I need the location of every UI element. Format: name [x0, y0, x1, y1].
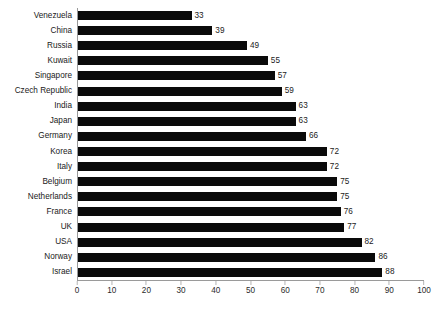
- bar-value-label: 33: [195, 11, 204, 19]
- x-tick: 80: [350, 281, 359, 295]
- bar-value-label: 72: [330, 147, 339, 155]
- bar: 55: [77, 56, 268, 65]
- bar: 86: [77, 253, 375, 262]
- bar-value-label: 59: [285, 87, 294, 95]
- bar-row: Norway86: [77, 250, 424, 265]
- category-label: Czech Republic: [15, 87, 72, 95]
- x-tick-mark: [146, 281, 147, 285]
- bar-row: Germany66: [77, 129, 424, 144]
- bar: 72: [77, 162, 327, 171]
- bar-value-label: 82: [365, 238, 374, 246]
- x-tick-label: 50: [246, 287, 255, 295]
- bar-value-label: 75: [340, 193, 349, 201]
- category-label: Israel: [52, 268, 72, 276]
- x-tick-mark: [250, 281, 251, 285]
- x-tick: 20: [142, 281, 151, 295]
- bar-rows: Venezuela33China39Russia49Kuwait55Singap…: [77, 8, 424, 280]
- x-tick: 50: [246, 281, 255, 295]
- bar: 88: [77, 268, 382, 277]
- bar-value-label: 66: [309, 132, 318, 140]
- bar-value-label: 57: [278, 72, 287, 80]
- bar: 66: [77, 132, 306, 141]
- x-tick-mark: [389, 281, 390, 285]
- bar-row: Netherlands75: [77, 189, 424, 204]
- bar-value-label: 88: [385, 268, 394, 276]
- x-tick: 90: [385, 281, 394, 295]
- category-label: China: [51, 27, 72, 35]
- bar: 82: [77, 238, 362, 247]
- bar: 72: [77, 147, 327, 156]
- category-label: Netherlands: [28, 193, 72, 201]
- category-label: Norway: [44, 253, 72, 261]
- bar-value-label: 77: [347, 223, 356, 231]
- category-label: Singapore: [35, 72, 72, 80]
- bar-row: China39: [77, 23, 424, 38]
- bar-row: Kuwait55: [77, 53, 424, 68]
- x-tick-label: 100: [417, 287, 431, 295]
- category-label: USA: [55, 238, 72, 246]
- bar: 63: [77, 102, 296, 111]
- bar: 77: [77, 223, 344, 232]
- x-tick-mark: [181, 281, 182, 285]
- x-tick-label: 70: [315, 287, 324, 295]
- x-tick: 40: [211, 281, 220, 295]
- bar-row: Korea72: [77, 144, 424, 159]
- x-tick: 60: [281, 281, 290, 295]
- category-label: Russia: [47, 42, 72, 50]
- bar-value-label: 63: [299, 102, 308, 110]
- x-tick-label: 30: [177, 287, 186, 295]
- bar: 39: [77, 26, 212, 35]
- plot-area: Venezuela33China39Russia49Kuwait55Singap…: [77, 8, 424, 280]
- bar-row: Belgium75: [77, 174, 424, 189]
- bar: 49: [77, 41, 247, 50]
- x-tick-mark: [319, 281, 320, 285]
- bar: 63: [77, 117, 296, 126]
- x-tick-label: 40: [211, 287, 220, 295]
- bar-value-label: 72: [330, 163, 339, 171]
- category-label: Belgium: [42, 178, 72, 186]
- category-label: UK: [61, 223, 72, 231]
- bar-row: Israel88: [77, 265, 424, 280]
- category-label: Italy: [57, 163, 72, 171]
- bar-value-label: 76: [344, 208, 353, 216]
- bar-row: Japan63: [77, 114, 424, 129]
- x-tick-label: 90: [385, 287, 394, 295]
- bar-row: France76: [77, 204, 424, 219]
- y-axis-line: [77, 8, 78, 280]
- bar: 75: [77, 192, 337, 201]
- bar-value-label: 55: [271, 57, 280, 65]
- bar: 76: [77, 207, 341, 216]
- x-tick-mark: [285, 281, 286, 285]
- bar-value-label: 86: [378, 253, 387, 261]
- bar-row: Venezuela33: [77, 8, 424, 23]
- category-label: France: [47, 208, 72, 216]
- bar-value-label: 63: [299, 117, 308, 125]
- bar: 59: [77, 87, 282, 96]
- category-label: Germany: [38, 132, 72, 140]
- bar-chart: Venezuela33China39Russia49Kuwait55Singap…: [0, 0, 447, 315]
- bar-value-label: 75: [340, 178, 349, 186]
- bar-row: Czech Republic59: [77, 84, 424, 99]
- category-label: India: [54, 102, 72, 110]
- x-tick-mark: [111, 281, 112, 285]
- x-tick-label: 20: [142, 287, 151, 295]
- x-tick: 100: [417, 281, 431, 295]
- x-tick-mark: [215, 281, 216, 285]
- bar-row: USA82: [77, 235, 424, 250]
- bar-row: Russia49: [77, 38, 424, 53]
- category-label: Japan: [50, 117, 72, 125]
- category-label: Korea: [50, 147, 72, 155]
- x-tick-label: 60: [281, 287, 290, 295]
- x-tick-label: 10: [107, 287, 116, 295]
- bar: 33: [77, 11, 192, 20]
- category-label: Venezuela: [34, 11, 72, 19]
- x-tick-label: 0: [75, 287, 80, 295]
- bar-row: Italy72: [77, 159, 424, 174]
- x-tick: 0: [75, 281, 80, 295]
- x-tick-mark: [354, 281, 355, 285]
- x-tick: 70: [315, 281, 324, 295]
- bar-row: Singapore57: [77, 68, 424, 83]
- x-tick-mark: [423, 281, 424, 285]
- bar-value-label: 49: [250, 42, 259, 50]
- x-axis-ticks: 0102030405060708090100: [77, 281, 424, 311]
